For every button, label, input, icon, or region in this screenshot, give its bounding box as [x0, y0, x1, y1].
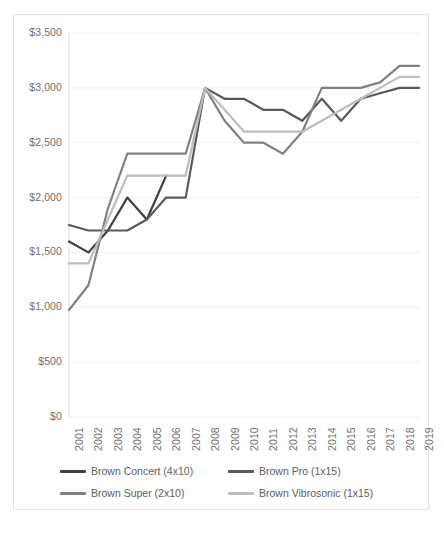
- legend-swatch-icon: [228, 470, 254, 473]
- x-axis-tick-label: 2012: [287, 427, 299, 451]
- legend-label: Brown Concert (4x10): [91, 465, 193, 477]
- legend-swatch-icon: [228, 492, 254, 495]
- x-axis-tick-label: 2002: [92, 427, 104, 451]
- x-axis-tick-label: 2019: [423, 427, 435, 451]
- x-axis-tick-label: 2007: [190, 427, 202, 451]
- x-axis-tick-label: 2018: [404, 427, 416, 451]
- y-axis-tick-label: $500: [14, 355, 62, 367]
- series-lines: [69, 66, 419, 310]
- legend-swatch-icon: [60, 470, 86, 473]
- x-axis-tick-label: 2010: [248, 427, 260, 451]
- x-axis-tick-label: 2003: [112, 427, 124, 451]
- legend-label: Brown Pro (1x15): [259, 465, 341, 477]
- legend-label: Brown Super (2x10): [91, 487, 184, 499]
- gridlines: [69, 33, 419, 417]
- y-axis-tick-label: $3,000: [14, 81, 62, 93]
- line-chart-plot: [0, 0, 444, 533]
- legend-item[interactable]: Brown Concert (4x10): [60, 465, 228, 477]
- x-axis-tick-label: 2017: [384, 427, 396, 451]
- x-axis-tick-label: 2006: [170, 427, 182, 451]
- y-axis-tick-label: $1,500: [14, 245, 62, 257]
- y-axis-tick-label: $1,000: [14, 300, 62, 312]
- x-axis-tick-label: 2011: [267, 428, 279, 451]
- x-axis-tick-label: 2013: [306, 427, 318, 451]
- y-axis-tick-label: $2,500: [14, 136, 62, 148]
- x-axis-tick-label: 2014: [326, 427, 338, 451]
- x-axis-tick-label: 2008: [209, 427, 221, 451]
- legend-item[interactable]: Brown Super (2x10): [60, 487, 228, 499]
- x-axis-tick-label: 2004: [131, 427, 143, 451]
- y-axis-tick-label: $3,500: [14, 26, 62, 38]
- x-axis-tick-label: 2015: [345, 427, 357, 451]
- x-axis-tick-label: 2005: [151, 427, 163, 451]
- x-axis-tick-label: 2001: [73, 427, 85, 451]
- y-axis-tick-label: $0: [14, 410, 62, 422]
- legend-swatch-icon: [60, 492, 86, 495]
- x-axis-tick-label: 2016: [365, 427, 377, 451]
- legend-item[interactable]: Brown Pro (1x15): [228, 465, 390, 477]
- x-axis-tick-label: 2009: [229, 427, 241, 451]
- legend-item[interactable]: Brown Vibrosonic (1x15): [228, 487, 390, 499]
- legend-label: Brown Vibrosonic (1x15): [259, 487, 373, 499]
- y-axis-tick-label: $2,000: [14, 191, 62, 203]
- chart-legend: Brown Concert (4x10)Brown Pro (1x15)Brow…: [60, 460, 390, 504]
